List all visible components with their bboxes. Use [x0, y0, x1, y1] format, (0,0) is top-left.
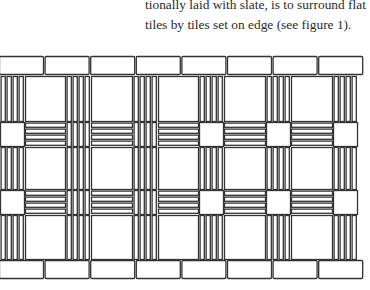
flat-square-tile — [225, 216, 266, 260]
edge-tile-vertical — [152, 216, 156, 260]
edge-tile-vertical — [67, 123, 71, 147]
tile-pattern-figure — [0, 0, 370, 290]
edge-tile-vertical — [67, 191, 71, 215]
edge-tile-vertical — [285, 77, 289, 122]
edge-tile-vertical — [73, 191, 77, 215]
edge-tile-vertical — [85, 123, 89, 147]
edge-tile-vertical — [73, 148, 77, 190]
edge-tile-horizontal — [92, 203, 133, 207]
flat-tile-top — [182, 57, 226, 75]
edge-tile-vertical — [1, 148, 5, 190]
edge-tile-horizontal — [26, 203, 66, 207]
flat-tile-bottom — [182, 261, 226, 279]
edge-tile-vertical — [146, 216, 150, 260]
edge-tile-vertical — [79, 216, 83, 260]
edge-tile-vertical — [140, 148, 144, 190]
edge-tile-vertical — [279, 148, 283, 190]
edge-tile-vertical — [134, 77, 138, 122]
edge-tile-vertical — [73, 77, 77, 122]
edge-tile-horizontal — [159, 191, 199, 195]
tile-pattern-diagram — [0, 0, 370, 290]
edge-tile-vertical — [146, 148, 150, 190]
flat-square-tile — [225, 148, 266, 190]
edge-tile-vertical — [206, 77, 210, 122]
edge-tile-vertical — [285, 216, 289, 260]
flat-tile-bottom — [136, 261, 180, 279]
edge-tile-vertical — [134, 216, 138, 260]
edge-tile-vertical — [212, 77, 216, 122]
edge-tile-horizontal — [92, 191, 133, 195]
edge-tile-vertical — [73, 123, 77, 147]
edge-tile-vertical — [73, 216, 77, 260]
flat-square-tile — [26, 216, 66, 260]
edge-tile-vertical — [79, 191, 83, 215]
edge-tile-horizontal — [292, 123, 333, 127]
edge-tile-vertical — [273, 216, 277, 260]
edge-tile-vertical — [140, 216, 144, 260]
edge-tile-horizontal — [225, 191, 266, 195]
edge-tile-vertical — [7, 216, 11, 260]
edge-tile-horizontal — [159, 209, 199, 213]
edge-tile-vertical — [152, 191, 156, 215]
edge-tile-vertical — [267, 148, 271, 190]
flat-square-tile-small — [334, 123, 358, 147]
edge-tile-vertical — [85, 191, 89, 215]
flat-square-tile — [159, 77, 199, 122]
edge-tile-vertical — [140, 123, 144, 147]
edge-tile-horizontal — [92, 129, 133, 133]
edge-tile-vertical — [346, 148, 350, 190]
edge-tile-vertical — [19, 148, 23, 190]
edge-tile-vertical — [152, 148, 156, 190]
edge-tile-vertical — [1, 77, 5, 122]
flat-tile-bottom — [0, 261, 44, 279]
edge-tile-horizontal — [26, 123, 66, 127]
edge-tile-horizontal — [26, 141, 66, 145]
edge-tile-horizontal — [225, 129, 266, 133]
edge-tile-vertical — [206, 148, 210, 190]
edge-tile-vertical — [146, 191, 150, 215]
edge-tile-horizontal — [225, 135, 266, 139]
edge-tile-vertical — [340, 77, 344, 122]
edge-tile-horizontal — [292, 191, 333, 195]
edge-tile-vertical — [218, 148, 222, 190]
edge-tile-horizontal — [26, 197, 66, 201]
flat-tile-top — [319, 57, 363, 75]
edge-tile-horizontal — [159, 129, 199, 133]
flat-square-tile — [26, 77, 66, 122]
flat-tile-top — [136, 57, 180, 75]
edge-tile-horizontal — [92, 197, 133, 201]
edge-tile-vertical — [13, 216, 17, 260]
edge-tile-vertical — [134, 123, 138, 147]
edge-tile-horizontal — [225, 197, 266, 201]
edge-tile-vertical — [285, 148, 289, 190]
edge-tile-horizontal — [225, 203, 266, 207]
edge-tile-vertical — [212, 148, 216, 190]
edge-tile-vertical — [79, 123, 83, 147]
flat-square-tile — [92, 216, 133, 260]
flat-square-tile-small — [200, 123, 224, 147]
edge-tile-vertical — [134, 191, 138, 215]
edge-tile-horizontal — [26, 135, 66, 139]
edge-tile-vertical — [67, 148, 71, 190]
edge-tile-vertical — [340, 148, 344, 190]
flat-square-tile — [159, 216, 199, 260]
flat-square-tile — [292, 77, 333, 122]
flat-tile-bottom — [91, 261, 135, 279]
edge-tile-horizontal — [225, 141, 266, 145]
flat-tile-bottom — [228, 261, 272, 279]
edge-tile-horizontal — [159, 197, 199, 201]
edge-tile-horizontal — [92, 135, 133, 139]
edge-tile-horizontal — [225, 123, 266, 127]
edge-tile-vertical — [134, 148, 138, 190]
flat-tile-bottom — [319, 261, 363, 279]
edge-tile-vertical — [200, 216, 204, 260]
edge-tile-vertical — [267, 77, 271, 122]
flat-square-tile — [292, 148, 333, 190]
flat-tile-bottom — [45, 261, 89, 279]
edge-tile-vertical — [85, 77, 89, 122]
edge-tile-horizontal — [292, 141, 333, 145]
flat-square-tile — [92, 77, 133, 122]
edge-tile-vertical — [352, 216, 356, 260]
edge-tile-vertical — [273, 77, 277, 122]
edge-tile-horizontal — [92, 141, 133, 145]
